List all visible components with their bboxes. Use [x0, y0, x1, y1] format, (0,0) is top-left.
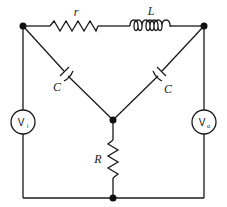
- node-top-right: [201, 23, 208, 30]
- top-branch: [23, 20, 204, 31]
- wire-left-diag-lower: [68, 76, 113, 120]
- shunt-branch: [108, 120, 118, 198]
- wire-left-diag-upper: [23, 26, 64, 71]
- label-L: L: [147, 4, 155, 18]
- node-bottom: [110, 195, 117, 202]
- input-branch: [11, 26, 35, 198]
- right-capacitor-branch: [113, 26, 204, 120]
- series-resistor-r: [50, 21, 98, 31]
- output-branch: [192, 26, 216, 198]
- label-C-left: C: [53, 80, 62, 94]
- label-r: r: [74, 5, 79, 19]
- circuit-diagram: r L C C R V i V o: [0, 0, 227, 207]
- label-R: R: [93, 152, 102, 166]
- label-Vo-subscript: o: [207, 123, 211, 129]
- node-center: [110, 117, 117, 124]
- node-top-left: [20, 23, 27, 30]
- label-Vi: V: [18, 117, 25, 128]
- shunt-resistor-R: [108, 140, 118, 178]
- label-C-right: C: [164, 82, 173, 96]
- wire-right-diag-upper: [162, 26, 204, 71]
- inductor-L: [130, 20, 172, 31]
- left-capacitor-branch: [23, 26, 113, 120]
- label-Vi-subscript: i: [27, 123, 28, 129]
- wire-right-diag-lower: [113, 76, 158, 120]
- label-Vo: V: [199, 117, 206, 128]
